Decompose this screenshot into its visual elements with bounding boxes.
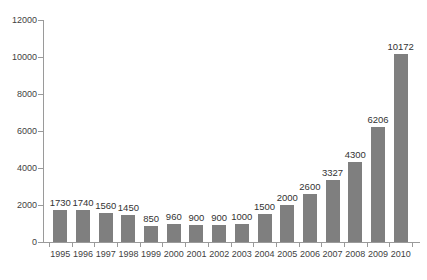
x-axis-tick <box>231 243 232 247</box>
bar <box>394 54 408 242</box>
bar <box>144 226 158 242</box>
bar-value-label: 1000 <box>220 212 264 222</box>
x-axis-tick <box>412 243 413 247</box>
bar-value-label: 1500 <box>243 202 287 212</box>
y-axis-tick <box>38 168 43 169</box>
x-axis-line <box>43 242 420 243</box>
bar-value-label: 2000 <box>265 193 309 203</box>
x-axis-tick <box>162 243 163 247</box>
bar <box>76 210 90 242</box>
y-axis-tick <box>38 94 43 95</box>
bar <box>212 225 226 242</box>
bar <box>167 224 181 242</box>
y-axis-tick <box>38 20 43 21</box>
y-axis-tick-label: 12000 <box>0 16 37 25</box>
bar <box>53 210 67 242</box>
y-axis-tick-label: 0 <box>0 238 37 247</box>
x-axis-tick <box>94 243 95 247</box>
bar-value-label: 3327 <box>311 168 355 178</box>
x-axis-category-label: 2010 <box>381 250 421 259</box>
bar-value-label: 6206 <box>356 115 400 125</box>
y-axis-line <box>43 20 44 243</box>
y-axis-tick <box>38 242 43 243</box>
y-axis-tick <box>38 131 43 132</box>
bar-chart-figure: 1730174015601450850960900900100015002000… <box>0 0 427 280</box>
bar-value-label: 1450 <box>106 203 150 213</box>
bar <box>235 224 249 243</box>
x-axis-tick <box>117 243 118 247</box>
x-axis-tick <box>367 243 368 247</box>
x-axis-tick <box>276 243 277 247</box>
x-axis-tick <box>253 243 254 247</box>
y-axis-tick-label: 10000 <box>0 53 37 62</box>
y-axis-tick-label: 2000 <box>0 201 37 210</box>
x-axis-tick <box>208 243 209 247</box>
bar-value-label: 10172 <box>379 42 423 52</box>
y-axis-tick <box>38 57 43 58</box>
bar-value-label: 4300 <box>333 150 377 160</box>
x-axis-tick <box>389 243 390 247</box>
x-axis-tick <box>299 243 300 247</box>
bar-value-label: 2600 <box>288 182 332 192</box>
x-axis-tick <box>49 243 50 247</box>
x-axis-tick <box>72 243 73 247</box>
y-axis-tick-label: 6000 <box>0 127 37 136</box>
bar <box>189 225 203 242</box>
bar <box>371 127 385 242</box>
x-axis-tick <box>185 243 186 247</box>
x-axis-tick <box>321 243 322 247</box>
bar <box>99 213 113 242</box>
plot-area: 1730174015601450850960900900100015002000… <box>43 20 420 243</box>
x-axis-tick <box>140 243 141 247</box>
x-axis-tick <box>344 243 345 247</box>
y-axis-tick-label: 4000 <box>0 164 37 173</box>
y-axis-tick-label: 8000 <box>0 90 37 99</box>
